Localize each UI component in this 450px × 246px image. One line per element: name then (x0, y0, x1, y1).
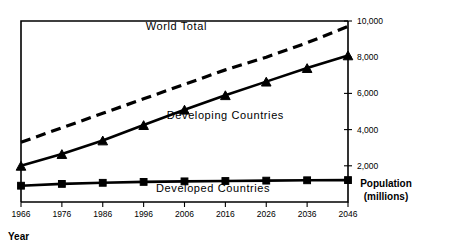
y-tick-label: 6,000 (357, 88, 379, 98)
y-tick-label: 8,000 (357, 52, 379, 62)
marker-developed-countries-2046 (345, 177, 352, 184)
chart-canvas: 2,0004,0006,0008,00010,000 1966197619861… (0, 0, 450, 246)
population-projection-chart: 2,0004,0006,0008,00010,000 1966197619861… (0, 0, 450, 246)
annotation-developing-countries: Developing Countries (167, 109, 284, 121)
x-axis-title: Year (8, 231, 29, 242)
x-tick-label: 2036 (298, 209, 317, 219)
y-tick-label: 4,000 (357, 125, 379, 135)
y-axis-tick-labels: 2,0004,0006,0008,00010,000 (357, 16, 383, 171)
marker-developed-countries-1966 (18, 182, 25, 189)
x-tick-label: 1966 (12, 209, 31, 219)
x-tick-label: 1986 (93, 209, 112, 219)
x-tick-label: 2016 (216, 209, 235, 219)
x-tick-label: 2026 (257, 209, 276, 219)
x-tick-label: 2046 (339, 209, 358, 219)
x-tick-label: 1996 (134, 209, 153, 219)
x-tick-label: 1976 (52, 209, 71, 219)
marker-developed-countries-1976 (58, 181, 65, 188)
y-tick-label: 2,000 (357, 161, 379, 171)
y-tick-label: 10,000 (357, 16, 383, 26)
marker-developed-countries-2036 (304, 177, 311, 184)
x-axis-tick-labels: 196619761986199620062016202620362046 (12, 209, 358, 219)
x-tick-label: 2006 (175, 209, 194, 219)
annotation-developed-countries: Developed Countries (156, 182, 270, 194)
annotation-world-total: World Total (146, 20, 207, 32)
marker-developed-countries-1996 (140, 179, 147, 186)
series-annotations: World TotalDeveloping CountriesDeveloped… (146, 20, 284, 194)
y-axis-title-line2: (millions) (364, 191, 408, 202)
marker-developed-countries-1986 (99, 179, 106, 186)
series-line-world-total (21, 26, 348, 142)
y-axis-title-line1: Population (360, 178, 412, 189)
